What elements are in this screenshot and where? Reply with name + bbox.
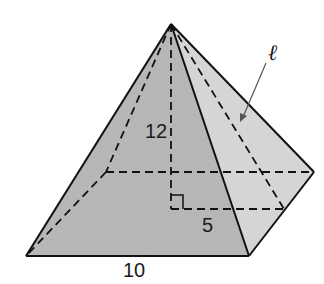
height-label: 12 xyxy=(145,120,167,142)
slant-height-label: ℓ xyxy=(268,40,278,65)
pyramid-diagram: 12 5 10 ℓ xyxy=(0,0,324,284)
half-base-label: 5 xyxy=(202,214,213,236)
base-edge-label: 10 xyxy=(123,259,145,281)
